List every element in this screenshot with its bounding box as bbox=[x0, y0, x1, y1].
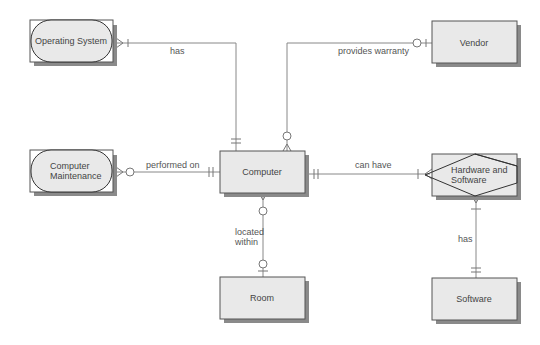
relationship-label-performed-on: performed on bbox=[146, 160, 200, 170]
entity-operating-system[interactable]: Operating System bbox=[30, 20, 117, 66]
relationship-has-sw: has bbox=[458, 196, 481, 278]
entity-room[interactable]: Room bbox=[220, 277, 309, 323]
entity-label-operating-system: Operating System bbox=[35, 36, 107, 46]
er-diagram: has provides warranty performed on can h… bbox=[0, 0, 540, 345]
entity-software[interactable]: Software bbox=[432, 278, 521, 324]
relationship-label-can-have: can have bbox=[355, 160, 392, 170]
entity-label-room: Room bbox=[250, 293, 274, 303]
relationship-performed-on: performed on bbox=[116, 160, 220, 177]
entity-label-hardware-and-software-2: Software bbox=[451, 175, 487, 185]
entity-vendor[interactable]: Vendor bbox=[432, 21, 521, 67]
entity-label-vendor: Vendor bbox=[460, 38, 489, 48]
entity-computer-maintenance[interactable]: Computer Maintenance bbox=[30, 150, 117, 196]
entity-label-computer-maintenance-1: Computer bbox=[50, 161, 90, 171]
relationship-has-os: has bbox=[116, 38, 241, 151]
entity-hardware-and-software[interactable]: Hardware and Software bbox=[425, 154, 521, 200]
entity-label-computer-maintenance-2: Maintenance bbox=[50, 171, 102, 181]
entity-label-software: Software bbox=[456, 294, 492, 304]
relationship-label-has-os: has bbox=[170, 46, 185, 56]
relationship-can-have: can have bbox=[305, 160, 432, 179]
relationship-label-located: located bbox=[235, 227, 264, 237]
entity-computer[interactable]: Computer bbox=[220, 151, 309, 197]
entity-label-hardware-and-software-1: Hardware and bbox=[451, 165, 508, 175]
relationship-provides-warranty: provides warranty bbox=[283, 39, 432, 151]
relationship-located-within: located within bbox=[234, 193, 268, 277]
relationship-label-has-sw: has bbox=[458, 234, 473, 244]
relationship-label-provides-warranty: provides warranty bbox=[338, 46, 410, 56]
entity-label-computer: Computer bbox=[242, 167, 282, 177]
relationship-label-within: within bbox=[234, 237, 258, 247]
